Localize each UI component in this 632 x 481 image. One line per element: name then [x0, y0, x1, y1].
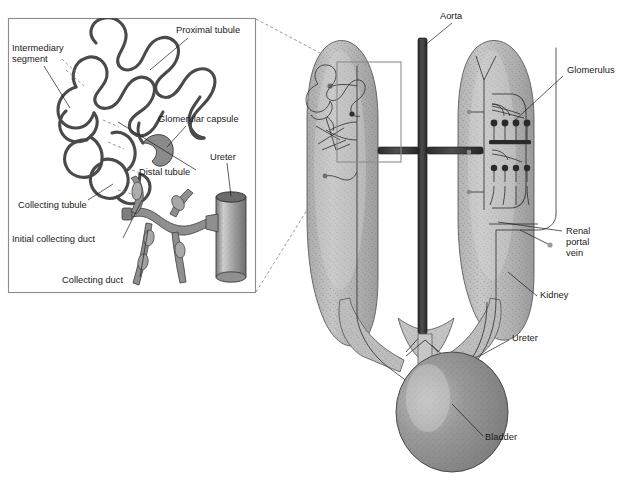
- glomerulus-collecting-bar: [489, 140, 531, 144]
- label-intermediary-segment-line2: segment: [12, 54, 48, 64]
- label-intermediary-segment-line1: Intermediary: [12, 43, 64, 53]
- label-renal-portal-vein-line2: portal: [566, 237, 589, 247]
- label-collecting-tubule: Collecting tubule: [18, 200, 87, 210]
- label-renal-portal-vein-line1: Renal: [566, 226, 590, 236]
- label-ureter-inset: Ureter: [210, 152, 236, 162]
- label-glomerular-capsule: Glomerular capsule: [158, 114, 239, 124]
- label-glomerulus: Glomerulus: [567, 65, 615, 75]
- label-proximal-tubule: Proximal tubule: [176, 25, 240, 35]
- label-ureter: Ureter: [512, 333, 538, 343]
- aorta-branch-right: [427, 147, 483, 154]
- label-aorta: Aorta: [440, 11, 463, 21]
- label-distal-tubule: Distal tubule: [139, 167, 190, 177]
- label-initial-collecting-duct: Initial collecting duct: [12, 234, 96, 244]
- label-collecting-duct: Collecting duct: [62, 275, 123, 285]
- label-kidney: Kidney: [540, 290, 569, 300]
- figure-root: Proximal tubule Intermediary segment Glo…: [0, 0, 632, 481]
- label-renal-portal-vein-line3: vein: [566, 248, 583, 258]
- aorta-trunk: [418, 38, 427, 334]
- aorta-branch-left: [378, 147, 419, 154]
- duct-left-stub: [122, 208, 132, 220]
- label-bladder: Bladder: [485, 432, 517, 442]
